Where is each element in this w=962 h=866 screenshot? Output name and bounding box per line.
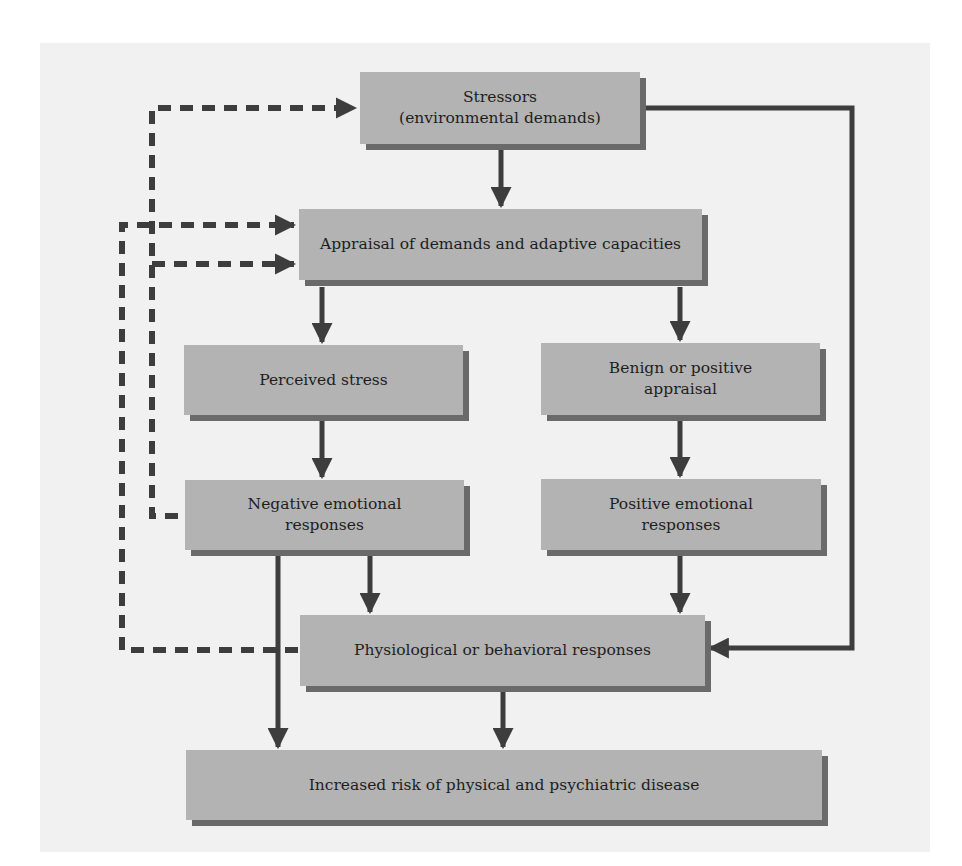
node-stressors: Stressors (environmental demands): [360, 72, 640, 144]
edge-negative-stressors-dashed: [152, 108, 355, 516]
node-negative-line2: responses: [248, 515, 402, 536]
node-negative-line1: Negative emotional: [248, 494, 402, 515]
node-perceived-stress: Perceived stress: [184, 345, 463, 415]
node-benign-line2: appraisal: [609, 379, 752, 400]
node-perceived-stress-label: Perceived stress: [259, 370, 388, 391]
node-benign-appraisal: Benign or positive appraisal: [541, 343, 820, 415]
node-negative-emotional: Negative emotional responses: [185, 480, 464, 550]
node-positive-line2: responses: [609, 515, 753, 536]
node-positive-emotional: Positive emotional responses: [541, 479, 821, 550]
node-physiological-label: Physiological or behavioral responses: [354, 640, 651, 661]
node-stressors-line1: Stressors: [399, 87, 601, 108]
node-positive-line1: Positive emotional: [609, 494, 753, 515]
node-physiological: Physiological or behavioral responses: [300, 615, 705, 686]
node-appraisal: Appraisal of demands and adaptive capaci…: [299, 209, 702, 280]
node-stressors-line2: (environmental demands): [399, 108, 601, 129]
node-benign-line1: Benign or positive: [609, 358, 752, 379]
node-disease-risk: Increased risk of physical and psychiatr…: [186, 750, 822, 820]
edge-physiological-appraisal-dashed: [122, 225, 298, 650]
node-appraisal-label: Appraisal of demands and adaptive capaci…: [320, 234, 681, 255]
node-disease-risk-label: Increased risk of physical and psychiatr…: [309, 775, 700, 796]
